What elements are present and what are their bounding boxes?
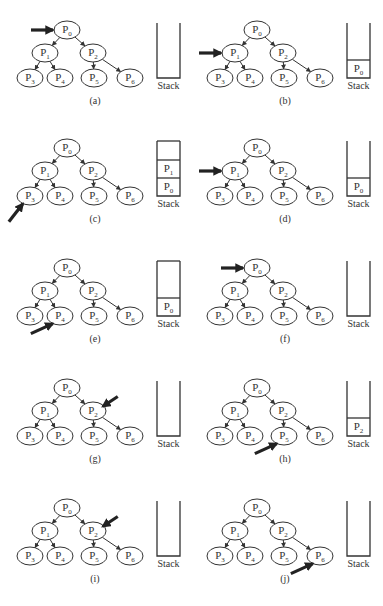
- edge-P0-P1: [242, 38, 250, 46]
- tree-node-p2: P2: [80, 44, 106, 62]
- stack: P0: [157, 261, 180, 316]
- tree-node-p3: P3: [17, 547, 43, 565]
- edge-P1-P4: [50, 419, 55, 427]
- panel-caption: (i): [90, 573, 99, 585]
- tree-node-p6: P6: [117, 187, 143, 205]
- edge-P2-P6: [292, 297, 310, 309]
- tree-node-p6: P6: [117, 307, 143, 325]
- edge-P1-P4: [50, 61, 55, 69]
- stack-item: P0: [164, 180, 174, 195]
- tree-node-p1: P1: [222, 162, 248, 180]
- tree-node-p4: P4: [47, 547, 73, 565]
- tree-node-p2: P2: [80, 162, 106, 180]
- edge-P1-P3: [35, 419, 40, 427]
- tree-node-p3: P3: [17, 427, 43, 445]
- stack-label: Stack: [347, 198, 369, 209]
- tree-node-p2: P2: [270, 282, 296, 300]
- tree-node-p1: P1: [32, 282, 58, 300]
- edge-P0-P2: [265, 395, 275, 404]
- edge-P2-P6: [292, 417, 310, 429]
- stack: P0: [347, 141, 370, 196]
- stack: [157, 381, 180, 436]
- tree-node-p4: P4: [237, 69, 263, 87]
- edge-P1-P3: [225, 61, 230, 69]
- panel-f: P0P1P2P3P4P5P6Stack(f): [207, 259, 370, 345]
- tree-node-p5: P5: [81, 547, 107, 565]
- stack: [157, 23, 180, 78]
- panel-c: P0P1P2P3P4P5P6P0P1Stack(c): [9, 139, 180, 225]
- tree-node-p3: P3: [17, 69, 43, 87]
- stack-label: Stack: [347, 318, 369, 329]
- edge-P2-P6: [102, 59, 120, 71]
- tree-node-p0: P0: [54, 139, 80, 157]
- panel-caption: (g): [89, 453, 101, 465]
- tree-node-p2: P2: [270, 522, 296, 540]
- edge-P2-P6: [102, 537, 120, 549]
- tree-node-p2: P2: [80, 522, 106, 540]
- stack-item: P1: [164, 162, 174, 177]
- tree-node-p2: P2: [270, 402, 296, 420]
- edge-P1-P3: [225, 539, 230, 547]
- edge-P2-P6: [292, 177, 310, 189]
- stack: [157, 501, 180, 556]
- edge-P0-P1: [52, 38, 60, 46]
- edge-P1-P3: [225, 299, 230, 307]
- tree-node-p1: P1: [32, 162, 58, 180]
- tree-node-p4: P4: [47, 427, 73, 445]
- panels-group: P0P1P2P3P4P5P6Stack(a)P0P1P2P3P4P5P6P0St…: [9, 21, 370, 585]
- tree-node-p4: P4: [237, 307, 263, 325]
- edge-P0-P2: [265, 37, 275, 46]
- tree-node-p1: P1: [222, 402, 248, 420]
- tree-node-p6: P6: [117, 69, 143, 87]
- edge-P1-P4: [50, 179, 55, 187]
- stack: [347, 501, 370, 556]
- stack: [347, 261, 370, 316]
- stack-item: P0: [354, 62, 364, 77]
- stack-label: Stack: [347, 438, 369, 449]
- tree-node-p0: P0: [244, 499, 270, 517]
- panel-d: P0P1P2P3P4P5P6P0Stack(d): [199, 139, 370, 225]
- tree-node-p1: P1: [32, 522, 58, 540]
- tree-node-p0: P0: [54, 21, 80, 39]
- edge-P1-P4: [50, 299, 55, 307]
- panel-caption: (f): [280, 333, 290, 345]
- stack: P0: [347, 23, 370, 78]
- tree-node-p6: P6: [307, 547, 333, 565]
- tree-node-p3: P3: [207, 427, 233, 445]
- tree-node-p5: P5: [81, 69, 107, 87]
- edge-P1-P4: [240, 419, 245, 427]
- current-node-pointer-arrow-icon: [291, 564, 313, 574]
- stack-label: Stack: [157, 318, 179, 329]
- edge-P1-P3: [35, 299, 40, 307]
- tree-node-p5: P5: [271, 307, 297, 325]
- edge-P0-P1: [52, 516, 60, 524]
- tree-node-p6: P6: [307, 427, 333, 445]
- tree-node-p0: P0: [54, 379, 80, 397]
- tree-node-p6: P6: [307, 69, 333, 87]
- tree-node-p3: P3: [207, 69, 233, 87]
- tree-node-p5: P5: [271, 187, 297, 205]
- tree-node-p4: P4: [237, 187, 263, 205]
- stack-item: P0: [164, 300, 174, 315]
- tree-node-p4: P4: [47, 69, 73, 87]
- edge-P2-P6: [102, 177, 120, 189]
- tree-node-p1: P1: [222, 282, 248, 300]
- panel-caption: (d): [279, 213, 291, 225]
- current-node-pointer-arrow-icon: [31, 324, 53, 334]
- stack-label: Stack: [347, 80, 369, 91]
- tree-node-p0: P0: [54, 259, 80, 277]
- tree-node-p0: P0: [244, 139, 270, 157]
- edge-P1-P4: [240, 539, 245, 547]
- stack-item: P2: [354, 420, 364, 435]
- edge-P1-P3: [225, 419, 230, 427]
- edge-P1-P4: [50, 539, 55, 547]
- edge-P2-P6: [102, 417, 120, 429]
- stack-label: Stack: [157, 438, 179, 449]
- tree-node-p3: P3: [17, 307, 43, 325]
- panel-h: P0P1P2P3P4P5P6P2Stack(h): [207, 379, 370, 465]
- edge-P0-P2: [265, 155, 275, 164]
- tree-node-p3: P3: [207, 307, 233, 325]
- edge-P2-P6: [292, 537, 310, 549]
- tree-node-p5: P5: [81, 187, 107, 205]
- tree-node-p1: P1: [222, 44, 248, 62]
